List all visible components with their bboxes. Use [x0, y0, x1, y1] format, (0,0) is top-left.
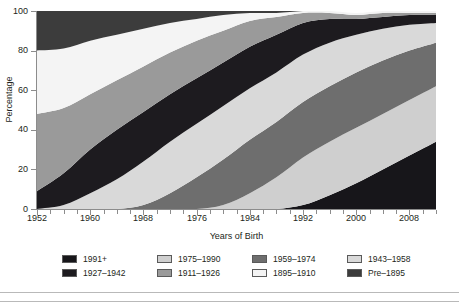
- x-tick-label: 1992: [283, 214, 323, 223]
- legend-item[interactable]: 1975–1990: [157, 252, 252, 266]
- legend-item[interactable]: 1927–1942: [62, 266, 157, 280]
- legend-swatch: [347, 255, 362, 263]
- legend-swatch: [157, 269, 172, 277]
- y-tick-label: 0: [0, 205, 28, 214]
- x-tick-mark-minor: [64, 210, 65, 214]
- legend-swatch: [62, 255, 77, 263]
- legend-label: 1911–1926: [178, 269, 220, 278]
- x-tick-label: 1984: [230, 214, 270, 223]
- y-tick-mark: [31, 169, 36, 170]
- legend-label: Pre–1895: [368, 269, 405, 278]
- y-tick-mark: [31, 11, 36, 12]
- stacked-area-plot: [37, 11, 436, 209]
- legend-swatch: [252, 269, 267, 277]
- divider-top: [0, 292, 459, 293]
- chart-figure: 020406080100 195219601968197619841992200…: [0, 0, 459, 304]
- legend-item[interactable]: 1959–1974: [252, 252, 347, 266]
- x-axis-title: Years of Birth: [37, 232, 436, 241]
- legend-item[interactable]: 1895–1910: [252, 266, 347, 280]
- divider-bottom: [0, 301, 459, 302]
- y-tick-mark: [31, 130, 36, 131]
- x-tick-label: 1952: [17, 214, 57, 223]
- legend-label: 1975–1990: [178, 255, 221, 264]
- x-tick-mark-minor: [223, 210, 224, 214]
- y-tick-mark: [31, 51, 36, 52]
- y-tick-mark: [31, 209, 36, 210]
- y-tick-label: 100: [0, 7, 28, 16]
- x-tick-mark-minor: [383, 210, 384, 214]
- legend-label: 1959–1974: [273, 255, 316, 264]
- y-tick-label: 80: [0, 46, 28, 55]
- legend-label: 1991+: [83, 255, 107, 264]
- legend-item[interactable]: Pre–1895: [347, 266, 442, 280]
- x-tick-label: 1960: [70, 214, 110, 223]
- legend-item[interactable]: 1911–1926: [157, 266, 252, 280]
- legend-swatch: [252, 255, 267, 263]
- y-tick-label: 20: [0, 165, 28, 174]
- legend-swatch: [62, 269, 77, 277]
- x-tick-mark-minor: [330, 210, 331, 214]
- legend-label: 1943–1958: [368, 255, 411, 264]
- area-bands: [37, 11, 436, 209]
- x-tick-mark-minor: [170, 210, 171, 214]
- x-axis-line: [36, 209, 436, 210]
- y-axis-title: Percentage: [5, 60, 14, 140]
- x-tick-mark-minor: [436, 210, 437, 214]
- legend-item[interactable]: 1991+: [62, 252, 157, 266]
- x-tick-mark-minor: [117, 210, 118, 214]
- x-tick-label: 1968: [123, 214, 163, 223]
- x-tick-label: 2008: [389, 214, 429, 223]
- legend-item[interactable]: 1943–1958: [347, 252, 442, 266]
- y-tick-mark: [31, 90, 36, 91]
- x-tick-mark-minor: [276, 210, 277, 214]
- x-tick-label: 1976: [177, 214, 217, 223]
- legend-swatch: [347, 269, 362, 277]
- plot-area: [37, 11, 436, 209]
- legend-label: 1927–1942: [83, 269, 126, 278]
- legend-label: 1895–1910: [273, 269, 316, 278]
- chart-legend: 1991+1975–19901959–19741943–19581927–194…: [62, 252, 442, 280]
- x-tick-label: 2000: [336, 214, 376, 223]
- legend-swatch: [157, 255, 172, 263]
- y-axis-line: [36, 11, 37, 210]
